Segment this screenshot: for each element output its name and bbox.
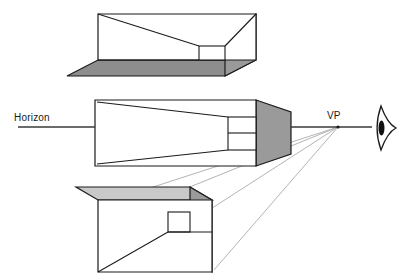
box-below-front-face [98,200,212,272]
diagram-canvas: Horizon VP [0,0,403,279]
box-above-front-face [98,14,256,60]
vanishing-point-marker [336,125,339,128]
eye-icon [377,106,396,150]
box-above-horizon [67,14,256,76]
perspective-diagram [0,0,403,279]
vanishing-point-label: VP [327,110,341,121]
box-above-interior-back-panel [199,46,225,60]
box-below-horizon [76,187,212,272]
horizon-label: Horizon [14,112,50,123]
box-below-interior-back-panel [168,212,190,232]
box-at-horizon [95,100,291,166]
box-at-right-face [256,100,291,166]
eye-pupil [379,121,385,136]
